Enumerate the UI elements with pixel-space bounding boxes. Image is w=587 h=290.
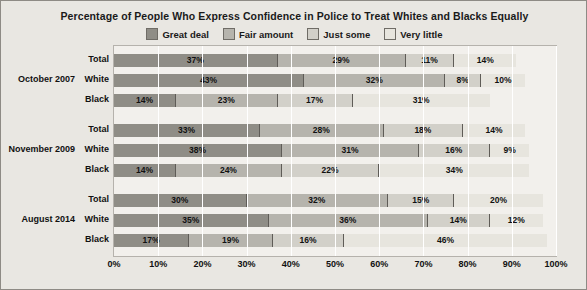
bar-segment: 46% (344, 234, 547, 247)
legend-swatch-fair-amount (223, 28, 235, 40)
bar-segment: 24% (176, 164, 282, 177)
bar-segment: 8% (445, 74, 480, 87)
gridline (512, 46, 513, 256)
bar-segment: 17% (114, 234, 189, 247)
row-label-total: Total (88, 193, 109, 206)
x-tick-label: 30% (238, 259, 256, 269)
bar-segment: 23% (176, 94, 278, 107)
bar-row: 17%19%16%46% (114, 234, 558, 247)
legend-swatch-just-some (307, 28, 319, 40)
bar-segment: 16% (273, 234, 344, 247)
bar-row: 43%32%8%10% (114, 74, 558, 87)
x-tick-label: 20% (193, 259, 211, 269)
x-tick-label: 10% (149, 259, 167, 269)
bar-segment: 14% (114, 94, 176, 107)
bar-segment: 11% (406, 54, 455, 67)
bar-segment: 35% (114, 214, 269, 227)
row-label-total: Total (88, 123, 109, 136)
group-label: October 2007 (18, 73, 75, 86)
bar-row: 14%24%22%34% (114, 164, 558, 177)
bar-row: 30%32%15%20% (114, 194, 558, 207)
legend-label-just-some: Just some (323, 29, 370, 40)
row-label-black: Black (85, 163, 109, 176)
bar-segment: 28% (260, 124, 384, 137)
category-axis-labels: TotalWhiteBlackOctober 2007TotalWhiteBla… (1, 45, 113, 257)
chart-container: Percentage of People Who Express Confide… (0, 0, 587, 290)
row-label-black: Black (85, 233, 109, 246)
bar-segment: 29% (278, 54, 406, 67)
gridline (335, 46, 336, 256)
bar-row: 14%23%17%31% (114, 94, 558, 107)
row-label-white: White (85, 213, 110, 226)
row-label-black: Black (85, 93, 109, 106)
x-tick-label: 80% (459, 259, 477, 269)
legend-item-just-some: Just some (307, 28, 370, 40)
gridline (291, 46, 292, 256)
bar-segment: 31% (282, 144, 419, 157)
x-tick-label: 100% (544, 259, 567, 269)
legend-label-great-deal: Great deal (162, 29, 208, 40)
row-label-white: White (85, 73, 110, 86)
gridline (423, 46, 424, 256)
bar-segment: 14% (454, 54, 516, 67)
bars-layer: 37%29%11%14%43%32%8%10%14%23%17%31%33%28… (114, 46, 558, 258)
gridline (468, 46, 469, 256)
legend-swatch-very-little (384, 28, 396, 40)
group-label: August 2014 (21, 213, 75, 226)
gridline (379, 46, 380, 256)
bar-segment: 30% (114, 194, 247, 207)
legend-item-very-little: Very little (384, 28, 442, 40)
x-tick-label: 0% (107, 259, 120, 269)
chart-title: Percentage of People Who Express Confide… (1, 10, 587, 22)
bar-segment: 33% (114, 124, 260, 137)
legend-item-great-deal: Great deal (146, 28, 208, 40)
bar-segment: 22% (282, 164, 379, 177)
bar-segment: 17% (278, 94, 353, 107)
x-tick-label: 60% (370, 259, 388, 269)
plot-area: 37%29%11%14%43%32%8%10%14%23%17%31%33%28… (113, 45, 557, 257)
gridline (202, 46, 203, 256)
bar-segment: 36% (269, 214, 428, 227)
bar-segment: 14% (463, 124, 525, 137)
bar-segment: 12% (490, 214, 543, 227)
row-label-white: White (85, 143, 110, 156)
x-tick-label: 90% (503, 259, 521, 269)
chart-legend: Great deal Fair amount Just some Very li… (1, 28, 587, 40)
gridline (247, 46, 248, 256)
x-tick-label: 40% (282, 259, 300, 269)
bar-segment: 14% (114, 164, 176, 177)
legend-item-fair-amount: Fair amount (223, 28, 293, 40)
bar-segment: 10% (481, 74, 525, 87)
bar-segment: 32% (247, 194, 388, 207)
bar-row: 33%28%18%14% (114, 124, 558, 137)
legend-label-very-little: Very little (400, 29, 442, 40)
bar-segment: 38% (114, 144, 282, 157)
x-tick-label: 70% (414, 259, 432, 269)
gridline (158, 46, 159, 256)
bar-segment: 31% (353, 94, 490, 107)
bar-row: 37%29%11%14% (114, 54, 558, 67)
group-label: November 2009 (8, 143, 75, 156)
gridline (556, 46, 557, 256)
legend-swatch-great-deal (146, 28, 158, 40)
legend-label-fair-amount: Fair amount (239, 29, 293, 40)
bar-segment: 37% (114, 54, 278, 67)
bar-segment: 9% (490, 144, 530, 157)
value-axis-labels: 0%10%20%30%40%50%60%70%80%90%100% (113, 259, 559, 273)
bar-segment: 16% (419, 144, 490, 157)
bar-row: 35%36%14%12% (114, 214, 558, 227)
bar-segment: 14% (428, 214, 490, 227)
bar-segment: 43% (114, 74, 304, 87)
bar-segment: 15% (388, 194, 454, 207)
x-tick-label: 50% (326, 259, 344, 269)
row-label-total: Total (88, 53, 109, 66)
bar-segment: 34% (379, 164, 529, 177)
bar-row: 38%31%16%9% (114, 144, 558, 157)
